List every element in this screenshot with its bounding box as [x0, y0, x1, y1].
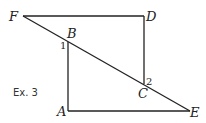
segment-fe [23, 16, 190, 111]
point-label-a: A [56, 104, 66, 119]
point-label-b: B [66, 26, 77, 41]
angle-label-1: 1 [60, 40, 66, 51]
point-label-d: D [145, 9, 157, 24]
point-label-c: C [138, 86, 148, 101]
point-label-e: E [189, 105, 200, 120]
example-caption: Ex. 3 [13, 87, 38, 98]
geometry-diagram: F D B 1 2 C A E Ex. 3 [0, 0, 206, 123]
point-label-f: F [8, 9, 19, 24]
